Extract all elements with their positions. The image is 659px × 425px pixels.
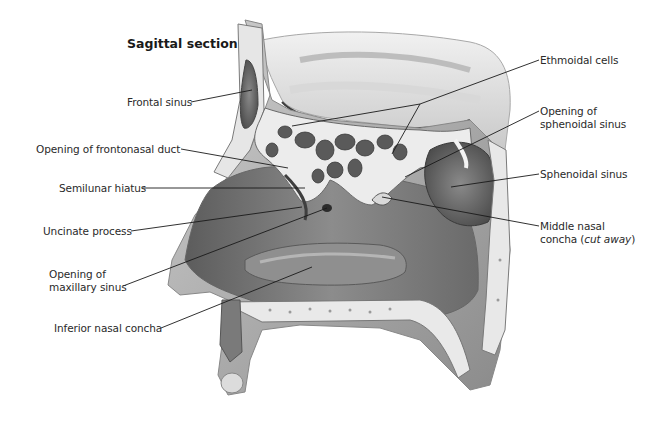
label-line: Middle nasal [540,220,635,233]
label-line: Opening of [49,268,127,281]
label-fragment: ) [631,233,635,245]
anatomy-figure: Sagittal section Frontal sinus Opening o… [0,0,659,425]
label-opening-maxillary-sinus: Opening of maxillary sinus [49,268,127,293]
label-semilunar-hiatus: Semilunar hiatus [59,182,146,195]
label-middle-nasal-concha: Middle nasal concha (cut away) [540,220,635,245]
figure-title: Sagittal section [127,36,238,51]
label-line: Opening of [540,105,626,118]
label-line: maxillary sinus [49,281,127,294]
lower-lip [221,373,243,393]
label-line: sphenoidal sinus [540,118,626,131]
label-fragment: concha ( [540,233,584,245]
label-opening-frontonasal-duct: Opening of frontonasal duct [36,143,180,156]
label-opening-sphenoidal-sinus: Opening of sphenoidal sinus [540,105,626,130]
label-inferior-nasal-concha: Inferior nasal concha [54,322,162,335]
label-ethmoidal-cells: Ethmoidal cells [540,54,618,67]
label-sphenoidal-sinus: Sphenoidal sinus [540,168,627,181]
label-italic-fragment: cut away [584,233,631,245]
label-frontal-sinus: Frontal sinus [127,96,192,109]
label-uncinate-process: Uncinate process [43,225,132,238]
label-line: concha (cut away) [540,233,635,246]
